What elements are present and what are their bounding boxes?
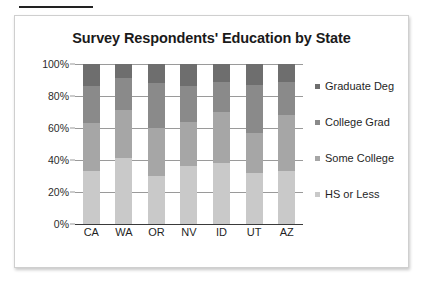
legend-swatch-icon [315, 156, 320, 161]
legend-item: Graduate Deg [315, 68, 410, 104]
bars-layer [75, 64, 303, 224]
bar-segment [148, 83, 165, 128]
bar-segment [115, 110, 132, 158]
bar-nv [180, 64, 197, 224]
bar-ca [83, 64, 100, 224]
gridline [75, 224, 303, 225]
x-axis-label-az: AZ [278, 226, 295, 238]
bar-segment [278, 64, 295, 82]
bar-segment [83, 64, 100, 86]
bar-segment [246, 64, 263, 85]
legend-swatch-icon [315, 192, 320, 197]
y-axis-tick-label: 0% [54, 218, 69, 230]
bar-segment [278, 115, 295, 171]
bar-segment [180, 122, 197, 167]
legend-label: Some College [325, 152, 394, 164]
bar-segment [278, 82, 295, 116]
bar-segment [148, 176, 165, 224]
bar-segment [213, 64, 230, 82]
legend-label: College Grad [325, 116, 390, 128]
x-axis-label-or: OR [148, 226, 165, 238]
x-axis-label-id: ID [213, 226, 230, 238]
legend-label: HS or Less [325, 188, 379, 200]
bar-segment [180, 86, 197, 121]
bar-or [148, 64, 165, 224]
chart-card: Survey Respondents' Education by State 0… [14, 15, 409, 268]
bar-segment [148, 128, 165, 176]
bar-segment [180, 166, 197, 224]
bar-segment [115, 158, 132, 224]
chart-title: Survey Respondents' Education by State [15, 30, 408, 46]
x-axis-labels: CAWAORNVIDUTAZ [75, 226, 303, 238]
y-axis-tick-label: 60% [48, 122, 69, 134]
bar-segment [246, 133, 263, 173]
legend-item: Some College [315, 140, 410, 176]
y-axis-tick-label: 100% [42, 58, 69, 70]
chart-legend: Graduate DegCollege GradSome CollegeHS o… [315, 68, 410, 212]
bar-segment [83, 123, 100, 171]
bar-az [278, 64, 295, 224]
bar-segment [148, 64, 165, 83]
bar-segment [83, 86, 100, 123]
bar-segment [278, 171, 295, 224]
bar-segment [246, 173, 263, 224]
x-axis-label-ca: CA [83, 226, 100, 238]
bar-segment [115, 64, 132, 78]
bar-segment [180, 64, 197, 86]
decorative-top-rule [19, 6, 93, 8]
bar-segment [83, 171, 100, 224]
bar-segment [213, 82, 230, 112]
bar-segment [213, 112, 230, 163]
legend-swatch-icon [315, 84, 320, 89]
y-axis-tick-label: 80% [48, 90, 69, 102]
chart-page: Survey Respondents' Education by State 0… [0, 0, 427, 285]
legend-label: Graduate Deg [325, 80, 394, 92]
bar-wa [115, 64, 132, 224]
bar-id [213, 64, 230, 224]
legend-swatch-icon [315, 120, 320, 125]
legend-item: College Grad [315, 104, 410, 140]
bar-segment [246, 85, 263, 133]
y-axis-tick-label: 40% [48, 154, 69, 166]
y-axis-tick-label: 20% [48, 186, 69, 198]
bar-segment [213, 163, 230, 224]
bar-ut [246, 64, 263, 224]
x-axis-label-ut: UT [246, 226, 263, 238]
plot-area: 0%20%40%60%80%100% [75, 64, 303, 224]
legend-item: HS or Less [315, 176, 410, 212]
x-axis-label-nv: NV [180, 226, 197, 238]
x-axis-label-wa: WA [115, 226, 132, 238]
bar-segment [115, 78, 132, 110]
